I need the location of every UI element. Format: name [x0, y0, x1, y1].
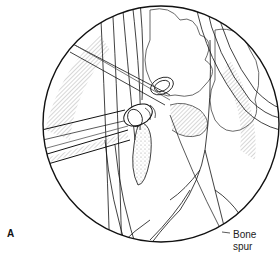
- endoscopic-view-drawing: [0, 0, 280, 259]
- callout-line-2: spur: [233, 241, 256, 253]
- callout-line-1: Bone: [233, 229, 256, 241]
- view-contents: [0, 0, 280, 259]
- panel-label: A: [7, 228, 14, 239]
- bone-spur-callout: Bone spur: [233, 229, 256, 253]
- surgical-illustration: A Bone spur: [0, 0, 280, 259]
